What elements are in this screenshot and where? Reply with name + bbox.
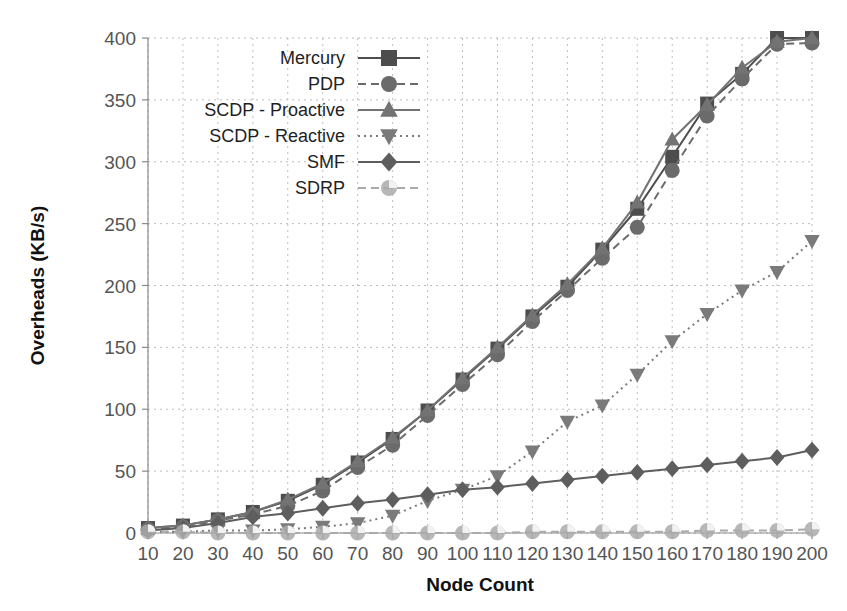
marker-circle-open xyxy=(805,522,820,537)
marker-circle-open xyxy=(385,526,400,541)
x-tick-label: 150 xyxy=(621,543,653,564)
x-tick-label: 170 xyxy=(691,543,723,564)
x-tick-label: 60 xyxy=(312,543,333,564)
marker-circle-open xyxy=(560,524,575,539)
marker-square xyxy=(381,50,397,66)
marker-circle-open xyxy=(665,524,680,539)
legend-label-pdp: PDP xyxy=(308,74,345,94)
marker-circle-open xyxy=(630,524,645,539)
x-tick-label: 100 xyxy=(447,543,479,564)
marker-circle-open xyxy=(245,526,260,541)
legend-label-mercury: Mercury xyxy=(280,48,345,68)
marker-circle-open xyxy=(210,526,225,541)
x-tick-label: 90 xyxy=(417,543,438,564)
x-tick-label: 20 xyxy=(172,543,193,564)
x-tick-label: 110 xyxy=(482,543,512,564)
legend-label-sdrp: SDRP xyxy=(295,178,345,198)
marker-circle-open xyxy=(420,526,435,541)
x-tick-label: 180 xyxy=(726,543,758,564)
y-tick-label: 400 xyxy=(104,28,136,49)
y-tick-label: 250 xyxy=(104,214,136,235)
y-tick-label: 300 xyxy=(104,152,136,173)
marker-circle-open xyxy=(350,526,365,541)
x-axis-title: Node Count xyxy=(426,574,534,595)
x-tick-label: 50 xyxy=(277,543,298,564)
x-tick-label: 120 xyxy=(517,543,549,564)
y-axis-title: Overheads (KB/s) xyxy=(27,206,48,365)
x-tick-label: 140 xyxy=(586,543,618,564)
y-tick-label: 350 xyxy=(104,90,136,111)
x-tick-label: 10 xyxy=(137,543,158,564)
marker-circle-open xyxy=(455,526,470,541)
marker-circle-open xyxy=(595,524,610,539)
marker-circle-open xyxy=(315,526,330,541)
marker-circle xyxy=(665,163,680,178)
marker-circle-open xyxy=(175,524,190,539)
overheads-line-chart: 050100150200250300350400 102030405060708… xyxy=(0,0,847,611)
x-tick-label: 160 xyxy=(656,543,688,564)
marker-circle-open xyxy=(700,523,715,538)
marker-circle-open xyxy=(141,524,156,539)
marker-circle-open xyxy=(770,523,785,538)
marker-circle-open xyxy=(381,180,397,196)
marker-circle-open xyxy=(735,523,750,538)
marker-circle xyxy=(630,220,645,235)
y-tick-label: 150 xyxy=(104,337,136,358)
y-tick-label: 50 xyxy=(115,461,136,482)
legend-label-scdp-proactive: SCDP - Proactive xyxy=(204,100,345,120)
marker-circle-open xyxy=(525,524,540,539)
x-tick-label: 80 xyxy=(382,543,403,564)
legend-label-smf: SMF xyxy=(307,152,345,172)
marker-circle-open xyxy=(280,526,295,541)
legend-label-scdp-reactive: SCDP - Reactive xyxy=(209,126,345,146)
x-tick-label: 70 xyxy=(347,543,368,564)
x-tick-label: 40 xyxy=(242,543,263,564)
y-tick-label: 0 xyxy=(125,523,136,544)
x-tick-label: 130 xyxy=(552,543,584,564)
y-tick-label: 100 xyxy=(104,399,136,420)
x-tick-label: 190 xyxy=(761,543,793,564)
x-tick-label: 200 xyxy=(796,543,828,564)
marker-circle-open xyxy=(490,526,505,541)
chart-figure: 050100150200250300350400 102030405060708… xyxy=(0,0,847,611)
x-tick-label: 30 xyxy=(207,543,228,564)
marker-circle xyxy=(381,76,397,92)
y-tick-label: 200 xyxy=(104,276,136,297)
